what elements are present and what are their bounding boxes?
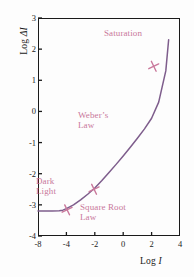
annotation-square-root-law: Square Root Law <box>80 202 126 222</box>
annotation-saturation: Saturation <box>104 28 142 38</box>
marker-weber-saturation-transition <box>149 61 159 71</box>
annotation-webers-law: Weber’s Law <box>78 110 108 130</box>
figure-container: Log ΔI Log I 3210-1-2-3-4 -8-4-2024 Satu… <box>0 0 194 277</box>
marker-group <box>62 61 159 214</box>
chart-overlay <box>0 0 194 277</box>
annotation-dark-light: Dark Light <box>36 176 56 196</box>
